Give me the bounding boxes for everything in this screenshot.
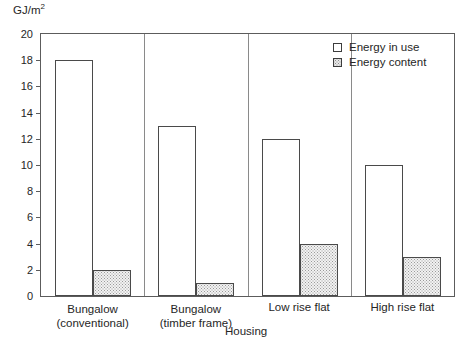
chart-plot-frame: 02468101214161820 xyxy=(40,33,455,297)
bar-energy-content xyxy=(403,257,441,296)
chart-legend: Energy in useEnergy content xyxy=(333,41,426,69)
legend-item: Energy content xyxy=(333,56,426,69)
bar-energy-content xyxy=(93,270,131,296)
x-axis-category-label-line1: Low rise flat xyxy=(268,301,329,313)
x-axis-title: Housing xyxy=(225,325,267,338)
x-axis-category-label: High rise flat xyxy=(351,301,454,315)
y-axis-tick-mark xyxy=(36,139,41,140)
y-axis-tick-label: 20 xyxy=(21,29,33,40)
legend-label: Energy in use xyxy=(349,41,419,54)
x-axis-separator xyxy=(351,34,352,296)
y-axis-tick-label: 2 xyxy=(27,264,33,275)
bar-energy-in-use xyxy=(365,165,403,296)
legend-item: Energy in use xyxy=(333,41,426,54)
y-axis-tick-label: 14 xyxy=(21,107,33,118)
x-axis-category-label-line1: High rise flat xyxy=(370,301,434,313)
y-axis-tick-mark xyxy=(36,113,41,114)
bar-energy-in-use xyxy=(262,139,300,296)
legend-swatch-energy-content xyxy=(333,58,342,67)
y-axis-tick-label: 12 xyxy=(21,133,33,144)
y-axis-tick-label: 16 xyxy=(21,81,33,92)
bar-energy-in-use xyxy=(158,126,196,296)
y-axis-tick-mark xyxy=(36,270,41,271)
x-axis-category-label-line1: Bungalow xyxy=(171,303,222,315)
y-axis-tick-label: 6 xyxy=(27,212,33,223)
y-axis-tick-mark xyxy=(36,244,41,245)
y-axis-tick-label: 4 xyxy=(27,238,33,249)
x-axis-category-label: Low rise flat xyxy=(248,301,351,315)
y-axis-tick-mark xyxy=(36,191,41,192)
x-axis-category-label-line2: (conventional) xyxy=(41,317,144,331)
legend-label: Energy content xyxy=(349,56,426,69)
y-axis-unit-label: GJ/m2 xyxy=(13,3,45,17)
y-axis-unit-text: GJ/m xyxy=(13,4,40,16)
y-axis-tick-label: 10 xyxy=(21,160,33,171)
bar-energy-content xyxy=(196,283,234,296)
y-axis-tick-mark xyxy=(36,217,41,218)
y-axis-tick-mark xyxy=(36,165,41,166)
y-axis-tick-label: 8 xyxy=(27,186,33,197)
bar-energy-content xyxy=(300,244,338,296)
y-axis-tick-mark xyxy=(36,86,41,87)
x-axis-separator xyxy=(248,34,249,296)
legend-swatch-energy-in-use xyxy=(333,43,342,52)
y-axis-unit-superscript: 2 xyxy=(40,2,44,11)
x-axis-separator xyxy=(144,34,145,296)
x-axis-category-label-line1: Bungalow xyxy=(67,303,118,315)
x-axis-category-label: Bungalow(conventional) xyxy=(41,303,144,330)
chart-plot-area: 02468101214161820 xyxy=(41,34,454,296)
y-axis-tick-label: 18 xyxy=(21,55,33,66)
bar-energy-in-use xyxy=(55,60,93,296)
y-axis-tick-mark xyxy=(36,60,41,61)
y-axis-tick-label: 0 xyxy=(27,291,33,302)
